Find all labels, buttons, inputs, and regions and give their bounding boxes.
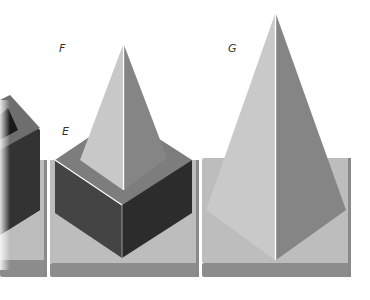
right-panel xyxy=(202,14,351,277)
diagram-stage: F E G xyxy=(0,0,370,300)
left-cube-panel xyxy=(0,95,47,277)
label-f: F xyxy=(59,43,65,54)
label-e: E xyxy=(62,126,69,137)
middle-panel xyxy=(50,45,199,277)
shapes-illustration xyxy=(0,0,370,300)
label-g: G xyxy=(228,43,237,54)
